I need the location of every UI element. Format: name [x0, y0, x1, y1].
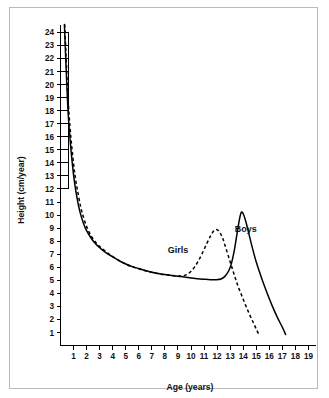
y-tick-label: 2	[49, 315, 54, 324]
x-tick-label: 13	[226, 352, 236, 361]
x-tick-label: 4	[110, 352, 115, 361]
chart-axes	[61, 25, 317, 346]
y-tick-label: 20	[45, 81, 55, 90]
chart-page: 1234567891011121314151617181920212223241…	[0, 0, 329, 398]
y-tick-label: 21	[45, 68, 55, 77]
y-tick-label: 15	[45, 146, 55, 155]
y-tick-label: 3	[49, 302, 54, 311]
x-axis-title: Age (years)	[167, 382, 214, 392]
x-tick-label: 6	[137, 352, 142, 361]
y-tick-label: 7	[49, 250, 54, 259]
y-tick-label: 23	[45, 41, 55, 50]
y-tick-label: 17	[45, 120, 55, 129]
y-tick-label: 9	[49, 224, 54, 233]
y-tick-label: 5	[49, 276, 54, 285]
x-tick-label: 12	[213, 352, 223, 361]
y-axis-title: Height (cm/year)	[16, 156, 26, 223]
x-tick-label: 15	[252, 352, 262, 361]
y-tick-label: 4	[49, 289, 54, 298]
x-tick-label: 3	[97, 352, 102, 361]
x-tick-label: 19	[304, 352, 314, 361]
growth-velocity-chart: 1234567891011121314151617181920212223241…	[0, 0, 329, 398]
y-tick-label: 1	[49, 329, 54, 338]
x-tick-label: 16	[265, 352, 275, 361]
label-girls: Girls	[168, 245, 189, 255]
x-tick-label: 9	[176, 352, 181, 361]
axis-tick-labels: 1234567891011121314151617181920212223241…	[45, 28, 314, 361]
x-tick-label: 7	[150, 352, 155, 361]
y-tick-label: 19	[45, 94, 55, 103]
y-tick-label: 6	[49, 263, 54, 272]
x-tick-label: 2	[84, 352, 89, 361]
x-tick-label: 17	[278, 352, 288, 361]
x-tick-label: 5	[123, 352, 128, 361]
curve-girls	[65, 25, 259, 335]
y-tick-label: 8	[49, 237, 54, 246]
y-tick-label: 16	[45, 133, 55, 142]
y-tick-label: 12	[45, 185, 55, 194]
series-annotations: GirlsBoys	[168, 224, 257, 255]
x-tick-label: 8	[163, 352, 168, 361]
curve-boys	[64, 25, 285, 335]
y-tick-label: 11	[45, 198, 54, 207]
x-tick-label: 14	[239, 352, 249, 361]
x-tick-label: 11	[200, 352, 209, 361]
x-tick-label: 10	[186, 352, 196, 361]
x-tick-label: 1	[71, 352, 76, 361]
x-tick-label: 18	[291, 352, 301, 361]
y-tick-label: 24	[45, 28, 55, 37]
y-tick-label: 18	[45, 107, 55, 116]
label-boys: Boys	[235, 224, 257, 234]
y-tick-label: 14	[45, 159, 55, 168]
y-tick-label: 22	[45, 54, 55, 63]
data-curves	[64, 25, 285, 335]
y-tick-label: 10	[45, 211, 55, 220]
y-tick-label: 13	[45, 172, 55, 181]
